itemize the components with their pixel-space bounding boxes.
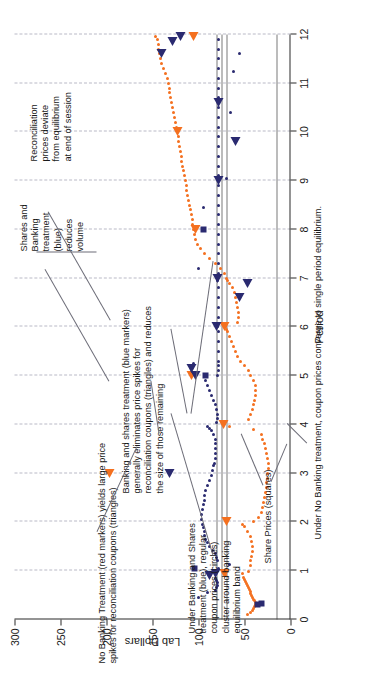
data-point-marker [202,372,208,378]
data-point-marker [229,111,232,114]
x-axis-tick-label: 6 [297,324,309,330]
data-point-marker [217,193,220,196]
data-point-marker [206,424,209,427]
data-point-marker [211,398,214,401]
data-point-marker [217,164,220,167]
data-point-marker [213,403,216,406]
y-axis-tick [152,619,153,625]
data-point-marker [213,437,216,440]
data-point-marker [206,384,209,387]
data-point-marker [184,179,187,182]
data-point-marker [169,96,172,99]
data-point-marker [175,32,185,41]
x-axis-tick [290,423,296,424]
data-point-marker [202,252,205,255]
gridline-vertical [14,521,290,522]
x-axis-tick-label: 12 [297,28,309,40]
data-point-marker [201,206,204,209]
data-point-marker [196,242,199,245]
data-point-marker [249,559,252,562]
data-point-marker [176,140,179,143]
data-point-marker [179,154,182,157]
rotated-chart-canvas: Lab Dollars Period 012345678910111205010… [0,0,375,681]
y-axis-tick-label: 300 [8,628,20,646]
data-point-marker [242,278,252,287]
data-point-marker [211,322,221,331]
data-point-marker [217,349,220,352]
x-axis-tick [290,179,296,180]
data-point-marker [194,237,197,240]
data-point-marker [188,32,198,41]
data-point-marker [156,42,159,45]
data-point-marker [181,164,184,167]
data-point-marker [182,169,185,172]
data-point-marker [239,359,242,362]
data-point-marker [162,67,165,70]
data-point-marker [212,273,222,282]
data-point-marker [186,198,189,201]
data-point-marker [217,203,220,206]
data-point-marker [254,393,257,396]
data-point-marker [204,379,207,382]
data-point-marker [183,174,186,177]
x-axis-tick-label: 11 [297,77,309,88]
x-axis-tick [290,521,296,522]
data-point-marker [258,600,264,606]
y-axis-tick [244,619,245,625]
x-axis-tick-label: 0 [297,616,309,622]
data-point-marker [217,67,220,70]
annotation-regular-coupon-cluster: Under Banking and Shares treatment (blue… [186,483,242,633]
data-point-marker [213,452,216,455]
x-axis-tick [290,374,296,375]
data-point-marker [213,176,223,185]
data-point-marker [248,535,251,538]
data-point-marker [213,262,216,265]
data-point-marker [190,225,200,234]
data-point-marker [210,469,213,472]
gridline-vertical [14,277,290,278]
data-point-marker [251,408,254,411]
data-point-marker [236,310,239,313]
data-point-marker [249,413,252,416]
x-axis-tick [290,131,296,132]
data-point-marker [187,203,190,206]
data-point-marker [217,86,220,89]
data-point-marker [246,369,249,372]
y-axis-tick [290,619,291,625]
data-point-marker [245,530,248,533]
data-point-marker [228,335,231,338]
data-point-marker [219,267,222,270]
data-point-marker [238,52,241,55]
data-point-marker [217,223,220,226]
data-point-marker [209,474,212,477]
data-point-marker [217,232,220,235]
data-point-marker [213,457,216,460]
x-axis-tick [290,326,296,327]
data-point-marker [233,349,236,352]
data-point-marker [197,267,200,270]
data-point-marker [254,388,257,391]
data-point-marker [253,398,256,401]
x-axis-tick-label: 7 [297,275,309,281]
chart-screenshot: Lab Dollars Period 012345678910111205010… [0,0,375,681]
data-point-marker [173,115,176,118]
data-point-marker [231,345,234,348]
data-point-marker [217,135,220,138]
data-point-marker [217,306,220,309]
data-point-marker [180,159,183,162]
data-point-marker [251,549,254,552]
x-axis-tick-label: 4 [297,421,309,427]
data-point-marker [217,115,220,118]
x-axis-tick [290,33,296,34]
data-point-marker [217,145,220,148]
data-point-marker [217,57,220,60]
data-point-marker [168,91,171,94]
x-axis-tick-label: 1 [297,567,309,573]
data-point-marker [212,462,215,465]
data-point-marker [217,364,220,367]
data-point-marker [160,62,163,65]
data-point-marker [208,388,211,391]
data-point-marker [218,420,228,429]
data-point-marker [214,442,217,445]
data-point-marker [234,293,244,302]
